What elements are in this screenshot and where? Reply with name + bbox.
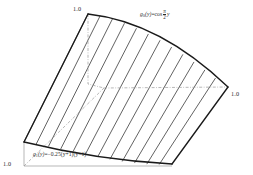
domain-diagram xyxy=(0,0,253,175)
formula-g0: g0(y)=cos π 2 y xyxy=(140,9,170,20)
hatch-line xyxy=(73,29,136,152)
region-outline xyxy=(24,14,228,164)
right-edge xyxy=(172,87,228,164)
formula-g1-subscript: 1 xyxy=(36,153,38,158)
formula-g0-numerator: π xyxy=(163,9,167,14)
formula-g0-fraction: π 2 xyxy=(163,9,167,20)
formula-g1-expression: =−0.25(y+1)(y−1) xyxy=(44,151,86,157)
hatch-line xyxy=(86,34,149,154)
hatch-line xyxy=(147,70,205,164)
hatch-line xyxy=(110,47,171,159)
hatch-line xyxy=(61,24,124,149)
formula-g0-tail: y xyxy=(167,11,170,17)
formula-g0-denominator: 2 xyxy=(163,15,167,20)
formula-g1: g1(y)=−0.25(y+1)(y−1) xyxy=(33,152,86,158)
hatch-line xyxy=(36,16,100,144)
tick-label-bottom-left: 1.0 xyxy=(3,161,11,167)
reference-lines xyxy=(24,14,228,166)
formula-g0-equals: =cos xyxy=(151,11,162,17)
figure-container: 1.0 1.0 1.0 g0(y)=cos π 2 y g1(y)=−0.25(… xyxy=(0,0,253,175)
hatch-line xyxy=(49,19,113,146)
tick-label-right: 1.0 xyxy=(231,91,239,97)
hatch-lines xyxy=(24,14,215,164)
hatch-line xyxy=(122,55,182,161)
left-edge xyxy=(24,14,88,142)
hatch-line xyxy=(159,78,215,164)
hatch-line xyxy=(135,62,194,162)
formula-g0-subscript: 0 xyxy=(143,13,145,18)
tick-label-top-left: 1.0 xyxy=(73,6,81,12)
